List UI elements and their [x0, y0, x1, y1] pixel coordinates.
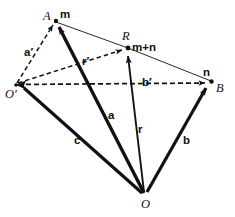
- vector-label-a: a: [108, 110, 114, 122]
- vector-label-c: c: [74, 135, 80, 147]
- vector-label-r: r: [138, 124, 142, 136]
- vector-label-n: n: [203, 67, 210, 79]
- vector-label-b: b: [183, 135, 190, 147]
- vector-label-a-prime: a′: [24, 47, 33, 59]
- vector-label-r-prime: r′: [82, 56, 89, 68]
- point-B-dot: [209, 79, 213, 83]
- point-label-R: R: [122, 30, 130, 43]
- edge-Oprime-to-B: [18, 83, 205, 85]
- point-label-A: A: [43, 10, 51, 23]
- point-R-dot: [126, 46, 131, 51]
- edge-O-to-B: [147, 88, 206, 192]
- point-A-dot: [54, 19, 58, 23]
- diagram-canvas: [0, 0, 235, 217]
- vector-label-b-prime: b′: [142, 77, 152, 89]
- point-label-O-prime: O′: [5, 88, 17, 101]
- vector-label-m-plus-n: m+n: [132, 42, 156, 54]
- prime-mark: ′: [30, 46, 33, 58]
- prime-mark: ′: [14, 87, 17, 101]
- vector-diagram: A R B O′ O m m+n n a′ r′ b′ a r c b: [0, 0, 235, 217]
- prime-mark: ′: [86, 55, 89, 67]
- prime-mark: ′: [149, 76, 152, 88]
- point-label-O: O: [141, 198, 150, 211]
- vector-label-m: m: [60, 9, 70, 21]
- point-label-B: B: [216, 82, 224, 95]
- edge-O-to-Oprime: [24, 88, 142, 193]
